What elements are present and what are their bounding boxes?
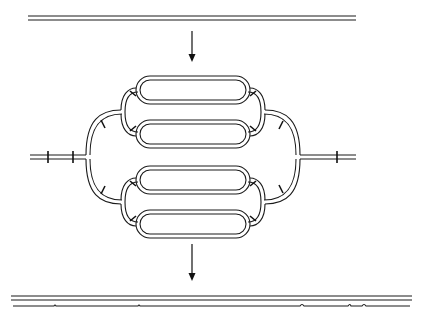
arrow-recombination bbox=[189, 244, 196, 281]
replication-structure bbox=[30, 76, 356, 238]
loop-4 bbox=[136, 210, 250, 238]
junction-brackets bbox=[13, 305, 410, 307]
loop-3 bbox=[136, 166, 250, 194]
arrow-disproportionate-replication bbox=[189, 31, 196, 62]
loop-2 bbox=[136, 120, 250, 148]
loop-1 bbox=[136, 76, 250, 104]
top-dna-duplex bbox=[28, 16, 356, 20]
bottom-dna-duplex bbox=[11, 296, 412, 306]
replication-recombination-diagram bbox=[0, 0, 422, 319]
